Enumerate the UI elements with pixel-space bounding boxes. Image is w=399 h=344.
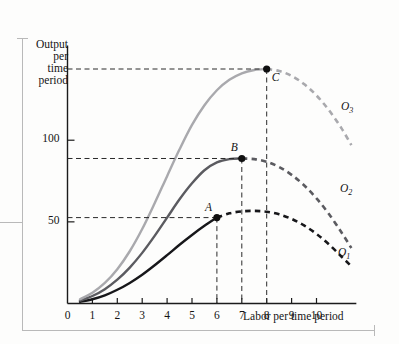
y-tick-label-100: 100 <box>24 132 60 144</box>
data-point-A <box>213 214 220 221</box>
curve-label-O3: O3 <box>341 100 353 115</box>
x-tick-label-7: 7 <box>232 309 252 321</box>
x-tick-label-1: 1 <box>82 309 102 321</box>
curve-O3-dashed <box>267 69 352 145</box>
curve-label-O1: O1 <box>338 246 350 261</box>
curve-O3-solid <box>80 69 267 299</box>
point-label-A: A <box>205 201 212 213</box>
x-tick-label-0: 0 <box>58 309 78 321</box>
curve-O1-solid <box>80 218 217 302</box>
curve-label-O2: O2 <box>340 182 352 197</box>
x-tick-label-10: 10 <box>307 309 327 321</box>
y-axis-title-line-3: time <box>36 62 68 74</box>
x-tick-label-3: 3 <box>132 309 152 321</box>
x-tick-label-5: 5 <box>182 309 202 321</box>
x-tick-label-4: 4 <box>157 309 177 321</box>
x-tick-label-9: 9 <box>282 309 302 321</box>
point-label-C: C <box>272 71 280 83</box>
x-tick-label-8: 8 <box>257 309 277 321</box>
data-point-C <box>263 65 270 72</box>
y-axis-title-line-4: period <box>36 74 68 86</box>
point-label-B: B <box>231 141 238 153</box>
curve-O1-dashed <box>217 211 351 266</box>
figure-canvas: Output per time period Labor per time pe… <box>0 0 399 344</box>
curve-O2-dashed <box>242 159 352 248</box>
y-axis-title-line-2: per <box>36 50 68 62</box>
y-axis-title: Output per time period <box>36 38 68 86</box>
x-tick-label-6: 6 <box>207 309 227 321</box>
y-tick-label-50: 50 <box>24 214 60 226</box>
curve-O2-solid <box>80 159 242 301</box>
y-axis-title-line-1: Output <box>36 38 68 50</box>
x-tick-label-2: 2 <box>107 309 127 321</box>
data-point-B <box>238 155 245 162</box>
